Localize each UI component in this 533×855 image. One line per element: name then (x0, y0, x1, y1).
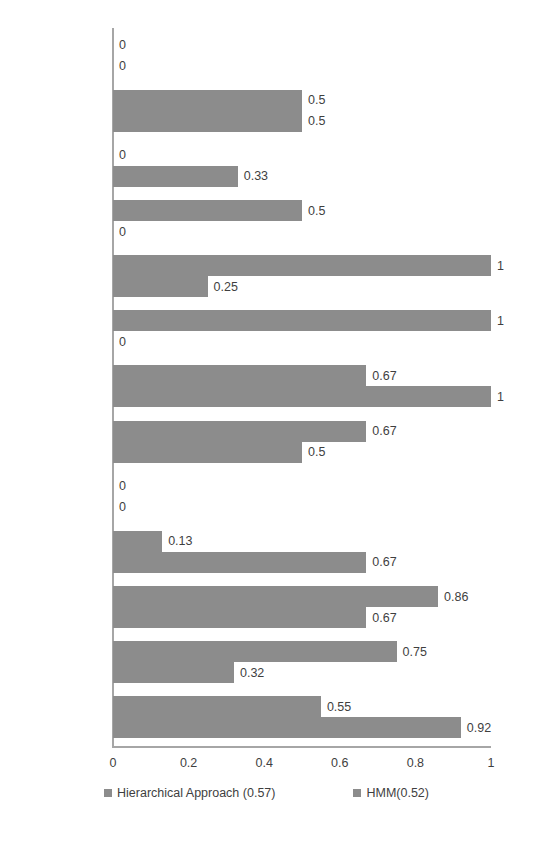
bar (113, 200, 302, 221)
bar-value-label: 0.86 (438, 590, 468, 604)
bar-row: 0 (113, 145, 491, 166)
bar-value-label: 0 (113, 148, 126, 162)
bar-value-label: 0.13 (162, 534, 192, 548)
bar-value-label: 1 (491, 259, 504, 273)
legend-label: Hierarchical Approach (0.57) (117, 786, 275, 800)
x-axis-tick-label: 1 (488, 756, 495, 770)
bar-row: 0 (113, 331, 491, 352)
bar-row: 0.67 (113, 607, 491, 628)
bar-row: 0.13 (113, 531, 491, 552)
bar-chart: Printing Paperwork00Driving0.50.5Talking… (0, 0, 533, 855)
bar-value-label: 0.25 (208, 280, 238, 294)
bar-value-label: 0.75 (397, 645, 427, 659)
legend-item[interactable]: Hierarchical Approach (0.57) (104, 786, 275, 800)
bar-value-label: 0.5 (302, 114, 325, 128)
category-group: Washing Dishes00 (113, 469, 491, 524)
bar-value-label: 1 (491, 390, 504, 404)
bar-value-label: 0 (113, 335, 126, 349)
bar-row: 0 (113, 497, 491, 518)
category-group: Video Gaming0.671 (113, 359, 491, 414)
bar-row: 0.25 (113, 276, 491, 297)
bar-row: 0.67 (113, 421, 491, 442)
bar-value-label: 0.5 (302, 93, 325, 107)
bar-value-label: 0 (113, 500, 126, 514)
bar-row: 0 (113, 56, 491, 77)
bar-value-label: 0.67 (366, 555, 396, 569)
category-group: Eating0.130.67 (113, 524, 491, 579)
category-group: Meeting0.50 (113, 193, 491, 248)
category-group: Cooking0.860.67 (113, 580, 491, 635)
chart-legend: Hierarchical Approach (0.57)HMM(0.52) (0, 786, 533, 800)
bar-row: 0 (113, 221, 491, 242)
bar-row: 1 (113, 386, 491, 407)
legend-label: HMM(0.52) (366, 786, 429, 800)
bar-value-label: 0.55 (321, 700, 351, 714)
x-axis-tick-label: 0 (110, 756, 117, 770)
bar-value-label: 0.5 (302, 445, 325, 459)
bar (113, 166, 238, 187)
x-axis-tick-label: 0.8 (407, 756, 424, 770)
bar-row: 0.5 (113, 442, 491, 463)
bar (113, 90, 302, 111)
bar-row: 0.32 (113, 662, 491, 683)
bar-row: 1 (113, 310, 491, 331)
bar (113, 662, 234, 683)
x-axis-tick-label: 0.4 (255, 756, 272, 770)
bar (113, 365, 366, 386)
bar-value-label: 0.5 (302, 204, 325, 218)
category-group: Talking to someone00.33 (113, 138, 491, 193)
bar (113, 641, 397, 662)
category-group: Presentaion10 (113, 304, 491, 359)
bar-row: 0.92 (113, 717, 491, 738)
bar-value-label: 0 (113, 479, 126, 493)
bar-value-label: 0.67 (366, 424, 396, 438)
bar-row: 0.55 (113, 696, 491, 717)
bar-value-label: 0.33 (238, 169, 268, 183)
category-group: Driving0.50.5 (113, 83, 491, 138)
bar (113, 586, 438, 607)
bar (113, 717, 461, 738)
bar-row: 0.33 (113, 166, 491, 187)
bar-row: 0 (113, 35, 491, 56)
bar (113, 442, 302, 463)
bar-value-label: 0 (113, 225, 126, 239)
bar (113, 607, 366, 628)
category-group: Walking0.550.92 (113, 690, 491, 745)
bar-row: 0.5 (113, 90, 491, 111)
bar (113, 531, 162, 552)
bar-row: 0 (113, 476, 491, 497)
bar-row: 0.5 (113, 200, 491, 221)
plot-area: Printing Paperwork00Driving0.50.5Talking… (113, 28, 491, 745)
legend-swatch-icon (104, 789, 112, 797)
bar-row: 0.75 (113, 641, 491, 662)
category-group: Having Class10.25 (113, 249, 491, 304)
bar (113, 111, 302, 132)
category-group: Cycling0.670.5 (113, 414, 491, 469)
bar-row: 0.5 (113, 111, 491, 132)
bar-value-label: 0.92 (461, 721, 491, 735)
bar-row: 0.67 (113, 552, 491, 573)
bar (113, 310, 491, 331)
bar (113, 696, 321, 717)
bar (113, 276, 208, 297)
bar-value-label: 1 (491, 314, 504, 328)
x-axis-line (112, 746, 491, 748)
bar-row: 1 (113, 255, 491, 276)
bar-value-label: 0.67 (366, 611, 396, 625)
x-axis-tick-label: 0.6 (331, 756, 348, 770)
x-axis-tick-label: 0.2 (180, 756, 197, 770)
bar (113, 386, 491, 407)
bar (113, 255, 491, 276)
bar (113, 552, 366, 573)
category-group: Working on Computer0.750.32 (113, 635, 491, 690)
category-group: Printing Paperwork00 (113, 28, 491, 83)
bar-value-label: 0.32 (234, 666, 264, 680)
bar-row: 0.86 (113, 586, 491, 607)
legend-item[interactable]: HMM(0.52) (353, 786, 429, 800)
bar-row: 0.67 (113, 365, 491, 386)
bar (113, 421, 366, 442)
legend-swatch-icon (353, 789, 361, 797)
bar-value-label: 0.67 (366, 369, 396, 383)
bar-value-label: 0 (113, 38, 126, 52)
bar-value-label: 0 (113, 59, 126, 73)
